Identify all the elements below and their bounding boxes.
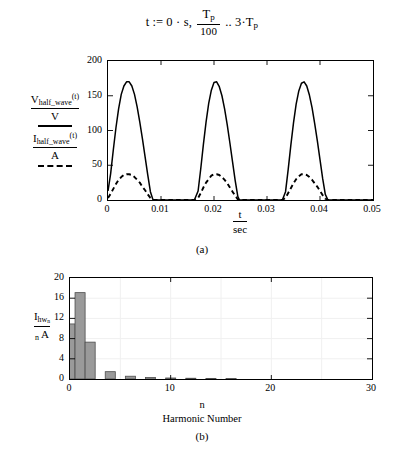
- top-x-tick-label: 0.05: [359, 203, 385, 214]
- bottom-x-tick-label: 30: [359, 382, 383, 393]
- bottom-y-tick-label: 12: [43, 311, 64, 322]
- fraction-bar: [233, 221, 247, 222]
- legend-current-denominator: A: [51, 149, 59, 162]
- equation-first-term: 0 · s,: [166, 15, 192, 30]
- top-x-tick-label: 0.01: [147, 203, 173, 214]
- equation-fraction: Tp 100: [197, 8, 220, 37]
- fraction-bar: [34, 326, 50, 327]
- figure-page: t := 0 · s, Tp 100 .. 3·Tp Vhalf_wave(t)…: [0, 0, 404, 453]
- equation-range-dots: ..: [225, 15, 232, 30]
- bottom-y-tick-label: 16: [43, 291, 64, 302]
- legend-solid-line-sample: [38, 125, 72, 127]
- bottom-y-tick-label: 20: [43, 271, 64, 282]
- bottom-x-tick-label: 0: [57, 382, 81, 393]
- legend-voltage-denominator: V: [51, 110, 59, 123]
- x-axis-denominator: sec: [233, 223, 247, 235]
- half-wave-waveform-plot: [107, 60, 374, 201]
- top-chart-x-axis-label: t sec: [214, 208, 266, 236]
- equation-fraction-denominator: 100: [197, 26, 220, 38]
- top-chart-svg: [108, 61, 373, 200]
- definition-equation: t := 0 · s, Tp 100 .. 3·Tp: [0, 8, 404, 37]
- legend-voltage-fraction: Vhalf_wave(t) V: [31, 92, 79, 122]
- top-y-tick-label: 200: [75, 54, 102, 65]
- equation-assign: :=: [152, 15, 163, 30]
- legend-current-numerator: Ihalf_wave(t): [33, 131, 77, 146]
- bottom-y-tick-label: 4: [43, 352, 64, 363]
- fraction-bar: [33, 147, 77, 148]
- legend-dashed-line-sample: [38, 165, 72, 167]
- equation-lhs: t: [146, 15, 150, 30]
- fraction-bar: [31, 108, 79, 109]
- bottom-y-tick-label: 0: [43, 372, 64, 383]
- harmonic-spectrum-plot: [69, 277, 373, 380]
- bottom-x-tick-label: 10: [158, 382, 182, 393]
- panel-tag-b: (b): [0, 430, 404, 442]
- top-y-tick-label: 50: [75, 158, 102, 169]
- top-x-tick-label: 0: [94, 203, 120, 214]
- bottom-y-tick-label: 8: [43, 332, 64, 343]
- equation-last-term: 3·Tp: [235, 15, 258, 30]
- legend-current-fraction: Ihalf_wave(t) A: [33, 131, 77, 161]
- top-y-tick-label: 0: [75, 193, 102, 204]
- top-y-tick-label: 100: [75, 124, 102, 135]
- bottom-chart-svg: [70, 278, 372, 379]
- x-axis-fraction: t sec: [233, 208, 247, 236]
- legend-voltage-numerator: Vhalf_wave(t): [31, 92, 79, 107]
- panel-tag-a: (a): [0, 243, 404, 255]
- bottom-x-tick-label: 20: [258, 382, 282, 393]
- top-y-tick-label: 150: [75, 89, 102, 100]
- x-axis-numerator: t: [238, 208, 241, 220]
- top-x-tick-label: 0.04: [306, 203, 332, 214]
- bottom-chart-x-axis-title: n: [0, 399, 404, 410]
- equation-fraction-numerator: Tp: [199, 8, 218, 23]
- bottom-chart-x-axis-subtitle: Harmonic Number: [0, 413, 404, 424]
